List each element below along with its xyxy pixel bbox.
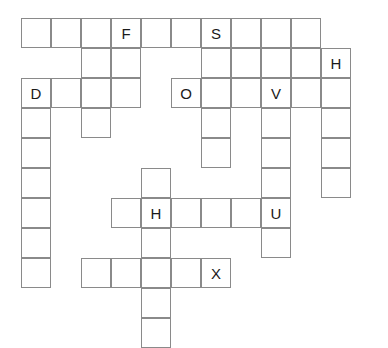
crossword-cell-empty[interactable]	[231, 48, 261, 78]
crossword-cell-empty[interactable]	[21, 168, 51, 198]
crossword-cell-empty[interactable]	[201, 198, 231, 228]
crossword-cell-empty[interactable]	[171, 198, 201, 228]
crossword-cell-empty[interactable]	[111, 198, 141, 228]
crossword-cell-empty[interactable]	[171, 258, 201, 288]
crossword-cell-empty[interactable]	[81, 48, 111, 78]
crossword-cell-empty[interactable]	[201, 48, 231, 78]
crossword-cell-letter[interactable]: D	[21, 78, 51, 108]
crossword-cell-letter[interactable]: X	[201, 258, 231, 288]
crossword-cell-letter[interactable]: O	[171, 78, 201, 108]
crossword-cell-letter[interactable]: H	[141, 198, 171, 228]
crossword-cell-empty[interactable]	[51, 18, 81, 48]
crossword-cell-empty[interactable]	[291, 48, 321, 78]
crossword-cell-empty[interactable]	[141, 288, 171, 318]
crossword-cell-empty[interactable]	[291, 18, 321, 48]
crossword-cell-empty[interactable]	[141, 318, 171, 348]
crossword-cell-empty[interactable]	[201, 108, 231, 138]
crossword-cell-empty[interactable]	[111, 78, 141, 108]
crossword-cell-empty[interactable]	[291, 78, 321, 108]
crossword-cell-letter[interactable]: H	[321, 48, 351, 78]
crossword-cell-empty[interactable]	[231, 18, 261, 48]
crossword-cell-empty[interactable]	[321, 108, 351, 138]
crossword-cell-empty[interactable]	[51, 78, 81, 108]
crossword-cell-empty[interactable]	[81, 18, 111, 48]
crossword-cell-empty[interactable]	[141, 168, 171, 198]
crossword-cell-empty[interactable]	[21, 18, 51, 48]
crossword-cell-empty[interactable]	[111, 258, 141, 288]
crossword-cell-empty[interactable]	[21, 138, 51, 168]
crossword-cell-empty[interactable]	[21, 108, 51, 138]
crossword-cell-empty[interactable]	[201, 78, 231, 108]
crossword-cell-letter[interactable]: U	[261, 198, 291, 228]
crossword-cell-empty[interactable]	[21, 258, 51, 288]
crossword-cell-empty[interactable]	[81, 108, 111, 138]
crossword-cell-empty[interactable]	[261, 138, 291, 168]
crossword-cell-empty[interactable]	[141, 258, 171, 288]
crossword-cell-empty[interactable]	[81, 258, 111, 288]
crossword-cell-empty[interactable]	[321, 138, 351, 168]
crossword-cell-empty[interactable]	[21, 198, 51, 228]
crossword-cell-empty[interactable]	[201, 138, 231, 168]
crossword-cell-empty[interactable]	[261, 48, 291, 78]
crossword-cell-empty[interactable]	[171, 18, 201, 48]
crossword-cell-empty[interactable]	[321, 78, 351, 108]
crossword-cell-empty[interactable]	[261, 168, 291, 198]
crossword-cell-empty[interactable]	[261, 108, 291, 138]
crossword-cell-empty[interactable]	[231, 198, 261, 228]
crossword-cell-empty[interactable]	[141, 18, 171, 48]
crossword-cell-letter[interactable]: S	[201, 18, 231, 48]
crossword-cell-letter[interactable]: F	[111, 18, 141, 48]
crossword-cell-empty[interactable]	[21, 228, 51, 258]
crossword-cell-empty[interactable]	[231, 78, 261, 108]
crossword-cell-empty[interactable]	[261, 18, 291, 48]
crossword-cell-empty[interactable]	[111, 48, 141, 78]
crossword-cell-empty[interactable]	[141, 228, 171, 258]
crossword-cell-empty[interactable]	[81, 78, 111, 108]
crossword-cell-empty[interactable]	[321, 168, 351, 198]
crossword-cell-letter[interactable]: V	[261, 78, 291, 108]
crossword-cell-empty[interactable]	[261, 228, 291, 258]
